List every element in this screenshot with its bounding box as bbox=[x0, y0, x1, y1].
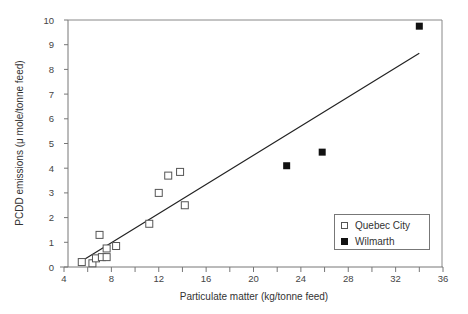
x-tick-label: 20 bbox=[248, 273, 259, 284]
y-axis-label: PCDD emissions (μ mole/tonne feed) bbox=[14, 60, 25, 225]
quebec-city-point bbox=[165, 172, 172, 179]
x-tick-label: 28 bbox=[343, 273, 354, 284]
y-tick-label: 1 bbox=[49, 237, 54, 248]
legend-label: Quebec City bbox=[355, 220, 410, 231]
quebec-city-point bbox=[113, 243, 120, 250]
scatter-chart: 0123456789104812162024283236 Particulate… bbox=[0, 0, 468, 314]
wilmarth-point bbox=[283, 162, 290, 169]
x-tick-label: 8 bbox=[109, 273, 114, 284]
y-tick-label: 3 bbox=[49, 187, 54, 198]
legend-label: Wilmarth bbox=[355, 236, 394, 247]
y-tick-label: 10 bbox=[43, 15, 54, 26]
x-tick-label: 32 bbox=[390, 273, 401, 284]
quebec-city-point bbox=[155, 189, 162, 196]
y-tick-label: 9 bbox=[49, 39, 54, 50]
quebec-city-point bbox=[103, 245, 110, 252]
y-tick-label: 6 bbox=[49, 113, 54, 124]
x-tick-label: 36 bbox=[438, 273, 449, 284]
x-tick-label: 16 bbox=[201, 273, 212, 284]
y-tick-label: 8 bbox=[49, 64, 54, 75]
x-tick-label: 4 bbox=[61, 273, 66, 284]
quebec-city-point bbox=[96, 231, 103, 238]
x-axis-label: Particulate matter (kg/tonne feed) bbox=[180, 291, 328, 302]
x-tick-label: 24 bbox=[296, 273, 307, 284]
legend-item-quebec-city: Quebec City bbox=[341, 217, 429, 233]
quebec-city-point bbox=[78, 259, 85, 266]
wilmarth-point bbox=[416, 23, 423, 30]
y-tick-label: 0 bbox=[49, 262, 54, 273]
legend: Quebec City Wilmarth bbox=[334, 214, 430, 250]
quebec-city-point bbox=[181, 202, 188, 209]
quebec-city-point bbox=[177, 168, 184, 175]
quebec-city-point bbox=[146, 220, 153, 227]
wilmarth-point bbox=[319, 149, 326, 156]
quebec-city-point bbox=[103, 254, 110, 261]
y-tick-label: 4 bbox=[49, 163, 54, 174]
filled-square-icon bbox=[341, 238, 348, 245]
open-square-icon bbox=[341, 222, 348, 229]
y-tick-label: 5 bbox=[49, 138, 54, 149]
y-tick-label: 2 bbox=[49, 212, 54, 223]
legend-item-wilmarth: Wilmarth bbox=[341, 233, 429, 249]
y-tick-label: 7 bbox=[49, 89, 54, 100]
x-tick-label: 12 bbox=[153, 273, 164, 284]
